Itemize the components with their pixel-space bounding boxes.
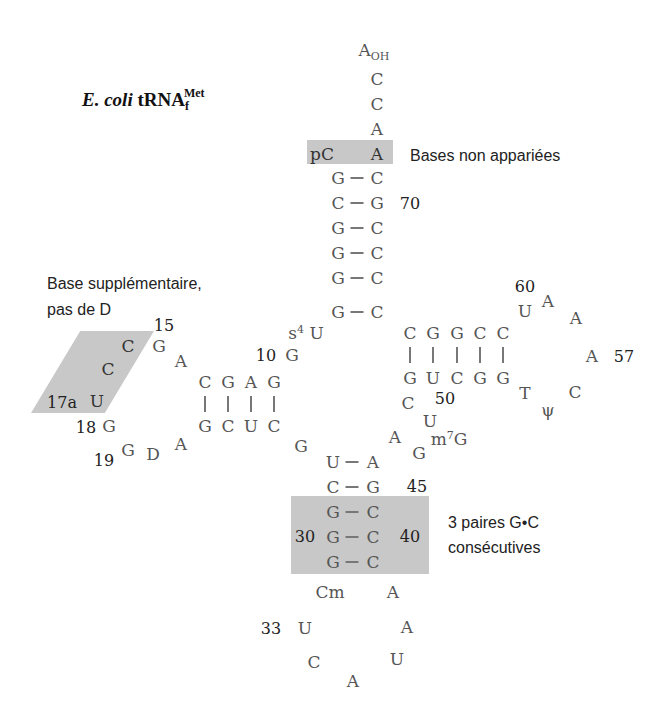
base-A57: A [586, 348, 598, 365]
position-33: 33 [261, 621, 281, 637]
pair-bond [432, 347, 434, 363]
position-57: 57 [614, 349, 634, 365]
base-G18: G [102, 418, 116, 435]
base-G19: G [121, 442, 135, 459]
position-17a: 17a [47, 395, 77, 411]
gc-pairs-label-line2: consécutives [448, 537, 541, 559]
anticodon-pair-right: C [366, 554, 379, 571]
base-A38: A [387, 584, 399, 601]
base-D20: D [146, 446, 160, 463]
position-10: 10 [256, 348, 276, 364]
pair-bond [502, 347, 504, 363]
unpaired-bases-label: Bases non appariées [410, 145, 560, 167]
base-G10: G [285, 347, 299, 364]
base-C34: C [307, 654, 320, 671]
position-15: 15 [154, 318, 174, 334]
t-stem-bottom: U [426, 370, 440, 387]
t-stem-top: C [403, 325, 416, 342]
pair-bond [479, 347, 481, 363]
position-30: 30 [295, 529, 315, 545]
base-A37: A [401, 619, 413, 636]
anticodon-pair-right: G [366, 479, 380, 496]
base-U17a: U [90, 393, 104, 410]
anticodon-pair-right: C [366, 504, 379, 521]
base-A14: A [175, 353, 187, 370]
title-molecule: tRNA [137, 89, 185, 110]
acceptor-pair-right: G [370, 195, 384, 212]
extra-base-label-line1: Base supplémentaire, [47, 273, 202, 295]
pair-bond [409, 347, 411, 363]
d-stem-top: A [245, 374, 257, 391]
anticodon-pair-left: G [326, 554, 340, 571]
title-subscript: f [185, 99, 189, 113]
base-U36: U [390, 651, 404, 668]
acceptor-pair-right: C [370, 270, 383, 287]
base-U47: U [423, 413, 437, 430]
pair-bond [346, 561, 359, 563]
base-A76: AOH [359, 42, 390, 62]
d-stem-top: C [198, 374, 211, 391]
base-A73: A [371, 121, 383, 138]
base-C56: C [568, 384, 581, 401]
pair-bond [346, 536, 359, 538]
position-45: 45 [407, 479, 427, 495]
base-C17: C [101, 361, 114, 378]
base-s4U8: s4 U [288, 324, 323, 343]
base-T54: T [519, 385, 530, 402]
base-G45: G [412, 445, 426, 462]
t-stem-top: C [473, 325, 486, 342]
anticodon-pair-left: U [326, 454, 340, 471]
position-70: 70 [400, 196, 420, 212]
base-pC1: pC [310, 146, 334, 163]
gc-pairs-label-line1: 3 paires G•C [448, 512, 539, 534]
d-stem-bottom: C [267, 418, 280, 435]
pair-bond [351, 202, 364, 204]
pair-bond [346, 511, 359, 513]
acceptor-pair-left: C [331, 195, 344, 212]
base-C16: C [121, 338, 134, 355]
t-stem-bottom: G [403, 370, 417, 387]
position-60: 60 [515, 279, 535, 295]
pair-bond [456, 347, 458, 363]
pair-bond [227, 396, 229, 412]
base-C48: C [401, 395, 414, 412]
base-A35: A [347, 673, 359, 690]
pair-bond [351, 227, 364, 229]
t-stem-bottom: G [473, 370, 487, 387]
base-U33: U [298, 620, 312, 637]
pair-bond [351, 277, 364, 279]
t-stem-bottom: C [450, 370, 463, 387]
acceptor-pair-right: C [370, 170, 383, 187]
base-psi55: ψ [541, 402, 554, 419]
base-Cm32: Cm [315, 584, 344, 601]
acceptor-pair-left: G [331, 220, 345, 237]
position-40: 40 [400, 529, 420, 545]
pair-bond [351, 311, 364, 313]
base-m7G46: m7G [431, 430, 468, 449]
title-organism: E. coli [82, 89, 133, 110]
base-A72: A [371, 146, 383, 163]
pair-bond [273, 396, 275, 412]
acceptor-pair-right: C [370, 220, 383, 237]
pair-bond [346, 461, 359, 463]
anticodon-pair-right: A [367, 454, 379, 471]
t-stem-top: G [450, 325, 464, 342]
title-superscript: Met [184, 86, 205, 100]
pair-bond [250, 396, 252, 412]
t-stem-top: G [426, 325, 440, 342]
anticodon-pair-right: C [366, 529, 379, 546]
pair-bond [204, 396, 206, 412]
base-A58: A [570, 310, 582, 327]
acceptor-pair-left: G [331, 245, 345, 262]
t-stem-top: C [496, 325, 509, 342]
d-stem-top: G [221, 374, 235, 391]
acceptor-pair-left: G [331, 304, 345, 321]
base-A59: A [542, 293, 554, 310]
d-stem-bottom: G [198, 418, 212, 435]
d-stem-top: G [267, 374, 281, 391]
pair-bond [351, 252, 364, 254]
anticodon-pair-left: C [326, 479, 339, 496]
base-C74: C [370, 96, 383, 113]
d-stem-bottom: U [244, 418, 258, 435]
position-50: 50 [435, 391, 455, 407]
